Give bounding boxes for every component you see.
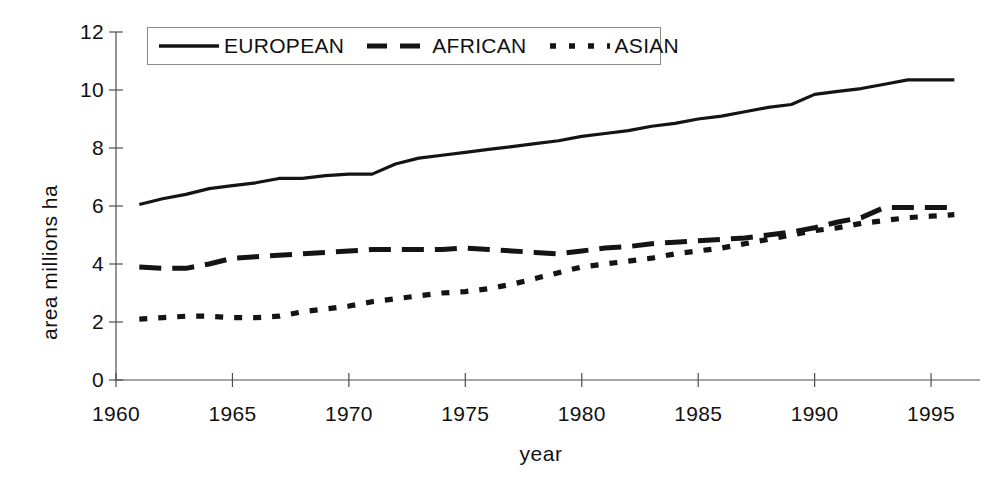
x-tick-label: 1980 xyxy=(558,402,606,426)
x-axis-title: year xyxy=(520,442,563,466)
series-line-african xyxy=(139,207,954,268)
y-tick-label: 2 xyxy=(60,310,104,334)
series-line-asian xyxy=(139,215,954,319)
legend-line-sample-icon xyxy=(366,39,428,53)
y-tick-label: 10 xyxy=(60,78,104,102)
chart-figure: 024681012 196019651970197519801985199019… xyxy=(0,0,987,488)
y-tick-label: 6 xyxy=(60,194,104,218)
legend-line-sample-icon xyxy=(549,39,611,53)
x-tick-label: 1970 xyxy=(325,402,373,426)
x-tick-label: 1990 xyxy=(791,402,839,426)
y-tick-label: 0 xyxy=(60,368,104,392)
legend-entry-african: AFRICAN xyxy=(366,28,526,64)
axis-lines xyxy=(116,32,980,380)
plot-area xyxy=(0,0,987,488)
x-tick-label: 1985 xyxy=(674,402,722,426)
legend-entry-european: EUROPEAN xyxy=(158,28,344,64)
x-tick-label: 1995 xyxy=(907,402,955,426)
series-line-european xyxy=(139,80,954,205)
y-tick-label: 8 xyxy=(60,136,104,160)
legend-label: EUROPEAN xyxy=(224,34,344,58)
legend-line-sample-icon xyxy=(158,39,220,53)
x-tick-label: 1960 xyxy=(92,402,140,426)
x-tick-label: 1975 xyxy=(441,402,489,426)
axis-ticks xyxy=(109,32,931,387)
y-axis-title: area millions ha xyxy=(38,185,62,340)
data-series-layer xyxy=(139,80,954,319)
legend-entry-asian: ASIAN xyxy=(549,28,680,64)
y-tick-label: 4 xyxy=(60,252,104,276)
y-tick-label: 12 xyxy=(60,20,104,44)
x-tick-label: 1965 xyxy=(208,402,256,426)
chart-legend: EUROPEANAFRICANASIAN xyxy=(147,27,661,65)
legend-label: AFRICAN xyxy=(432,34,526,58)
legend-label: ASIAN xyxy=(615,34,680,58)
